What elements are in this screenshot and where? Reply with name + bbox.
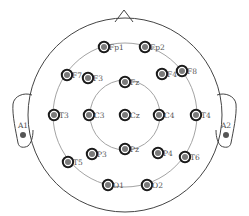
electrode-f7: F7: [62, 70, 82, 80]
electrode-dot: [193, 112, 199, 118]
electrode-o1: O1: [103, 180, 124, 190]
electrode-cz: Cz: [120, 110, 140, 120]
electrode-label: O1: [113, 181, 124, 190]
ear-electrode-a1: A1: [17, 121, 28, 138]
electrode-p4: P4: [153, 148, 173, 158]
electrode-label: P4: [163, 149, 173, 158]
eeg-10-20-diagram: Fp1Fp2F7F3FzF4F8T3C3CzC4T4T5P3PzP4T6O1O2…: [0, 0, 249, 216]
electrode-label: T3: [59, 111, 69, 120]
electrode-dot: [64, 72, 70, 78]
ear-electrode-dot: [223, 132, 229, 138]
electrode-dot: [51, 112, 57, 118]
electrode-t4: T4: [191, 110, 211, 120]
electrode-dot: [122, 146, 128, 152]
electrode-o2: O2: [142, 180, 163, 190]
electrode-dot: [122, 79, 128, 85]
electrode-c3: C3: [84, 110, 105, 120]
electrode-label: T4: [201, 111, 211, 120]
electrode-label: O2: [152, 181, 163, 190]
electrode-label: F8: [187, 67, 197, 76]
electrode-label: C4: [164, 111, 175, 120]
electrode-label: Pz: [130, 145, 139, 154]
electrode-dot: [155, 150, 161, 156]
electrode-dot: [86, 112, 92, 118]
electrode-dot: [142, 44, 148, 50]
nose: [115, 10, 133, 22]
electrode-f4: F4: [157, 69, 177, 79]
ear-electrode-a2: A2: [220, 121, 231, 138]
electrode-dot: [182, 154, 188, 160]
electrode-label: Fp1: [109, 43, 124, 52]
electrode-p3: P3: [87, 149, 107, 159]
electrode-c4: C4: [154, 110, 175, 120]
electrode-f8: F8: [177, 66, 197, 76]
electrode-fp1: Fp1: [99, 42, 124, 52]
electrode-label: Cz: [130, 111, 140, 120]
electrode-dot: [156, 112, 162, 118]
electrode-label: T6: [190, 153, 200, 162]
ear-electrode-dot: [20, 132, 26, 138]
electrode-t5: T5: [63, 157, 83, 167]
electrode-label: Fp2: [150, 43, 165, 52]
electrode-dot: [89, 151, 95, 157]
electrode-t6: T6: [180, 152, 200, 162]
electrode-label: T5: [73, 158, 83, 167]
electrode-label: F3: [93, 74, 103, 83]
electrode-dot: [179, 68, 185, 74]
electrode-dot: [144, 182, 150, 188]
electrode-dot: [122, 112, 128, 118]
electrode-dot: [101, 44, 107, 50]
electrode-dot: [65, 159, 71, 165]
electrode-label: P3: [97, 150, 107, 159]
electrode-dot: [159, 71, 165, 77]
ear-electrode-label: A1: [17, 121, 28, 130]
electrode-dot: [85, 75, 91, 81]
electrode-pz: Pz: [120, 144, 139, 154]
ear-electrode-label: A2: [220, 121, 231, 130]
electrode-t3: T3: [49, 110, 69, 120]
electrode-label: F4: [167, 70, 177, 79]
electrode-label: Fz: [130, 78, 139, 87]
electrode-fz: Fz: [120, 77, 139, 87]
electrode-dot: [105, 182, 111, 188]
electrode-fp2: Fp2: [140, 42, 165, 52]
electrode-label: C3: [94, 111, 105, 120]
electrode-label: F7: [72, 71, 82, 80]
electrode-f3: F3: [83, 73, 103, 83]
